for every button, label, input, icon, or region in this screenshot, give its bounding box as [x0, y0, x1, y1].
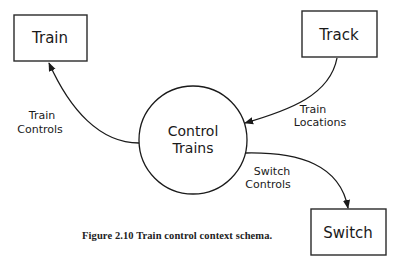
flow-switch-controls: Switch Controls [245, 153, 348, 208]
flow-train-locations: Train Locations [245, 58, 346, 129]
flow-label-line1: Train [299, 103, 326, 116]
flow-label-line1: Train [28, 109, 55, 122]
process-control-trains: Control Trains [139, 86, 247, 194]
terminator-train-label: Train [31, 29, 68, 47]
flow-label-line2: Controls [17, 123, 63, 136]
flow-label-line1: Switch [254, 165, 290, 178]
terminator-track: Track [302, 11, 377, 57]
terminator-switch-label: Switch [323, 224, 373, 242]
terminator-switch: Switch [311, 209, 386, 255]
figure-caption: Figure 2.10 Train control context schema… [82, 230, 272, 241]
flow-label-line2: Locations [294, 116, 347, 129]
flow-label-line2: Controls [245, 178, 291, 191]
process-label-line2: Trains [172, 140, 214, 156]
process-label-line1: Control [168, 123, 219, 139]
terminator-track-label: Track [318, 26, 359, 44]
flow-train-controls: Train Controls [17, 63, 139, 143]
terminator-train: Train [14, 15, 87, 61]
context-diagram: Train Track Switch Control Trains Train … [0, 0, 394, 267]
